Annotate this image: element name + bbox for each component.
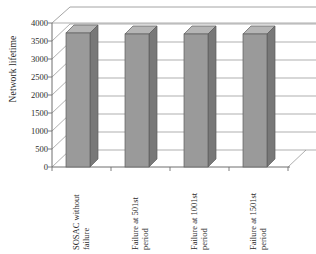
x-axis-tick-labels: SOSAC without failure Failure at 501st p… xyxy=(0,0,316,254)
bar-chart: Network lifetime 4000 3500 3000 2500 200… xyxy=(0,0,316,254)
x-tick-label: SOSAC without failure xyxy=(72,172,91,250)
x-tick-label: Failure at 1001st period xyxy=(190,172,209,250)
x-tick-label: Failure at 1501st period xyxy=(249,172,268,250)
x-tick-label: Failure at 501st period xyxy=(131,172,150,250)
